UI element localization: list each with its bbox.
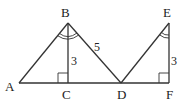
length-BD: 5 xyxy=(94,40,100,54)
label-F: F xyxy=(166,87,173,102)
right-angle-mark-C xyxy=(58,73,68,83)
geometry-diagram: B E A C D F 5 3 3 xyxy=(0,0,181,104)
label-D: D xyxy=(117,87,126,102)
segment-AB xyxy=(19,23,68,83)
segment-DE xyxy=(121,23,169,83)
length-BC: 3 xyxy=(71,54,77,68)
label-C: C xyxy=(62,87,71,102)
label-B: B xyxy=(61,5,70,20)
angle-arc-E-inner xyxy=(162,33,170,36)
right-angle-mark-F xyxy=(159,73,169,83)
label-A: A xyxy=(5,79,15,94)
label-E: E xyxy=(163,5,171,20)
length-EF: 3 xyxy=(171,54,177,68)
